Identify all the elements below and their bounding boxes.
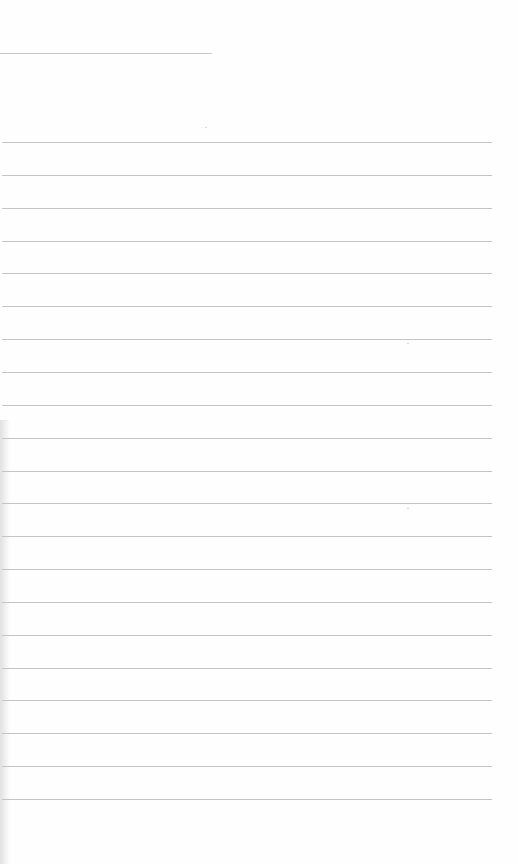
ruled-line — [2, 668, 492, 669]
ruled-line — [2, 372, 492, 373]
page-edge-shadow — [0, 420, 10, 864]
ruled-line — [2, 241, 492, 242]
ruled-line — [2, 142, 492, 143]
paper-speck — [407, 508, 409, 509]
ruled-line — [2, 175, 492, 176]
ruled-line — [2, 503, 492, 504]
paper-speck — [205, 127, 207, 128]
ruled-line — [2, 438, 492, 439]
ruled-line — [2, 635, 492, 636]
ruled-line — [2, 733, 492, 734]
ruled-line — [2, 273, 492, 274]
ruled-line — [2, 339, 492, 340]
ruled-line — [2, 536, 492, 537]
ruled-line — [2, 306, 492, 307]
ruled-line — [2, 602, 492, 603]
ruled-line — [2, 799, 492, 800]
ruled-line — [2, 208, 492, 209]
ruled-line — [2, 766, 492, 767]
lined-paper-page — [0, 0, 518, 864]
ruled-line — [2, 405, 492, 406]
ruled-line — [2, 569, 492, 570]
ruled-line — [2, 471, 492, 472]
header-line — [0, 53, 212, 54]
paper-speck — [407, 343, 409, 344]
ruled-line — [2, 700, 492, 701]
